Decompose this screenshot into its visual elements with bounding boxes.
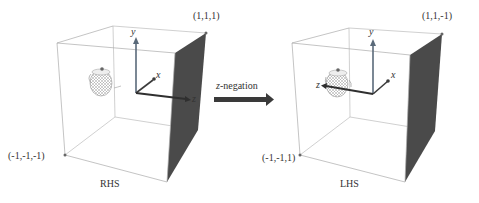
lhs-caption: LHS — [340, 178, 359, 189]
corner-dot-top — [441, 33, 444, 36]
rhs-cube — [57, 26, 208, 182]
corner-dot-top — [205, 32, 208, 35]
z-axis-label: z — [316, 79, 320, 90]
x-axis — [136, 80, 153, 93]
lhs-cube — [292, 28, 444, 182]
x-axis-label: x — [391, 69, 395, 80]
corner-label-bottom-rhs: (-1,-1,-1) — [8, 150, 45, 161]
x-axis — [373, 81, 388, 94]
dark-face — [405, 34, 442, 182]
corner-label-top-lhs: (1,1,-1) — [422, 10, 452, 21]
corner-dot-bottom — [64, 154, 67, 157]
teapot-icon — [89, 67, 121, 96]
z-negation-arrow — [214, 93, 274, 106]
rhs-caption: RHS — [100, 178, 119, 189]
x-axis-label: x — [156, 69, 160, 80]
corner-label-top-rhs: (1,1,1) — [193, 10, 220, 21]
teapot-icon — [325, 68, 351, 97]
z-axis-label: z — [192, 93, 196, 104]
operation-label: z-negation — [216, 80, 258, 91]
operation-text: -negation — [220, 80, 258, 91]
corner-label-bottom-lhs: (-1,-1,1) — [262, 152, 295, 163]
dark-face — [167, 33, 206, 182]
corner-dot-bottom — [299, 154, 302, 157]
y-axis-label: y — [131, 26, 135, 37]
y-axis-label: y — [369, 26, 373, 37]
diagram-canvas — [0, 0, 479, 203]
